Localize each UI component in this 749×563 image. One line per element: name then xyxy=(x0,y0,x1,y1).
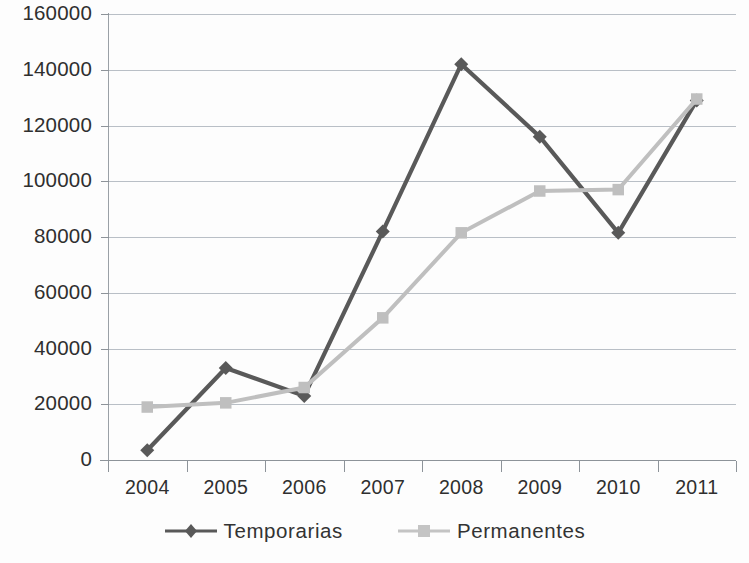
data-point-square xyxy=(220,397,232,409)
legend-label-permanentes: Permanentes xyxy=(457,519,586,543)
legend-item-permanentes[interactable]: Permanentes xyxy=(397,519,586,543)
legend-key-square-icon xyxy=(397,522,451,540)
data-point-square xyxy=(142,401,154,413)
data-point-square xyxy=(691,93,703,105)
line-chart: 0200004000060000800001000001200001400001… xyxy=(0,0,749,563)
data-point-square xyxy=(299,382,311,394)
data-point-square xyxy=(456,227,468,239)
data-point-square xyxy=(377,312,389,324)
legend: Temporarias Permanentes xyxy=(0,519,749,543)
legend-item-temporarias[interactable]: Temporarias xyxy=(164,519,343,543)
data-point-square xyxy=(534,185,546,197)
series-layer xyxy=(0,0,749,563)
legend-label-temporarias: Temporarias xyxy=(224,519,343,543)
data-point-square xyxy=(613,184,625,196)
legend-key-diamond-icon xyxy=(164,522,218,540)
series-line xyxy=(147,64,697,450)
data-point-diamond xyxy=(376,224,390,238)
